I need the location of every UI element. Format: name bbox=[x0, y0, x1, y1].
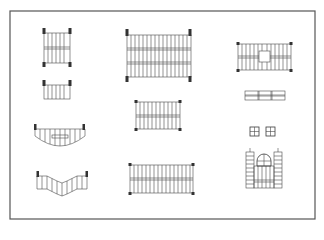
post-icon bbox=[69, 80, 72, 86]
post-icon bbox=[192, 163, 195, 166]
post-icon bbox=[126, 76, 129, 82]
post-icon bbox=[189, 76, 192, 82]
post-icon bbox=[37, 171, 40, 177]
post-icon bbox=[43, 62, 46, 67]
post-icon bbox=[126, 29, 129, 36]
post-icon bbox=[290, 69, 293, 72]
post-icon bbox=[43, 80, 46, 86]
post-icon bbox=[83, 124, 86, 130]
post-icon bbox=[129, 163, 132, 166]
post-icon bbox=[43, 28, 46, 34]
post-icon bbox=[129, 192, 132, 195]
post-icon bbox=[189, 29, 192, 36]
post-icon bbox=[237, 69, 240, 72]
post-icon bbox=[237, 42, 240, 45]
post-icon bbox=[34, 124, 37, 130]
post-icon bbox=[179, 100, 182, 103]
post-icon bbox=[69, 28, 72, 34]
post-icon bbox=[86, 171, 89, 177]
window-icon bbox=[259, 51, 270, 62]
post-icon bbox=[290, 42, 293, 45]
post-icon bbox=[69, 62, 72, 67]
post-icon bbox=[192, 192, 195, 195]
post-icon bbox=[135, 100, 138, 103]
post-icon bbox=[135, 128, 138, 131]
post-icon bbox=[179, 128, 182, 131]
